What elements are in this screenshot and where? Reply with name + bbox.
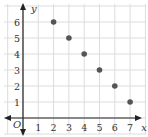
x-tick-label: 4: [81, 122, 87, 133]
x-tick-label: 3: [66, 122, 72, 133]
y-tick-label: 5: [14, 33, 20, 44]
x-tick-label: 6: [112, 122, 118, 133]
y-tick-label: 1: [14, 97, 20, 108]
y-tick-label: 6: [14, 17, 20, 28]
data-points: [51, 19, 133, 105]
x-axis-arrow-right-icon: [135, 115, 142, 121]
x-tick-label: 1: [35, 122, 41, 133]
x-tick-label: 7: [127, 122, 133, 133]
y-tick-label: 2: [14, 81, 20, 92]
x-tick-label: 5: [96, 122, 102, 133]
scatter-chart: xyO1234567123456: [0, 0, 148, 137]
data-point: [112, 83, 118, 89]
data-point: [81, 51, 87, 57]
data-point: [97, 67, 103, 73]
y-axis-label: y: [30, 3, 37, 14]
x-axis-label: x: [141, 122, 147, 133]
grid: [4, 4, 146, 134]
origin-label: O: [13, 119, 21, 130]
data-point: [51, 19, 57, 25]
x-tick-label: 2: [51, 122, 57, 133]
data-point: [127, 99, 133, 105]
y-tick-label: 4: [14, 49, 20, 60]
y-axis-arrow-down-icon: [20, 129, 26, 136]
data-point: [66, 35, 72, 41]
y-tick-label: 3: [14, 65, 20, 76]
